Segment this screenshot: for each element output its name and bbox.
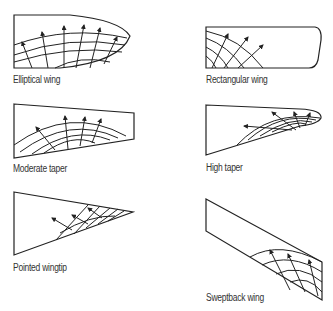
label-elliptical-wing: Elliptical wing bbox=[13, 74, 60, 85]
pointed-wingtip-shape bbox=[14, 192, 133, 255]
rectangular-wing-shape bbox=[206, 27, 321, 68]
label-high-taper: High taper bbox=[206, 162, 243, 173]
label-pointed-wingtip: Pointed wingtip bbox=[13, 262, 67, 273]
high-taper-shape bbox=[206, 105, 321, 155]
label-rectangular-wing: Rectangular wing bbox=[206, 74, 268, 85]
moderate-taper-shape bbox=[14, 104, 134, 158]
sweptback-wing-shape bbox=[206, 199, 322, 300]
label-sweptback-wing: Sweptback wing bbox=[206, 292, 264, 303]
label-moderate-taper: Moderate taper bbox=[13, 163, 67, 174]
elliptical-wing-shape bbox=[14, 15, 130, 68]
